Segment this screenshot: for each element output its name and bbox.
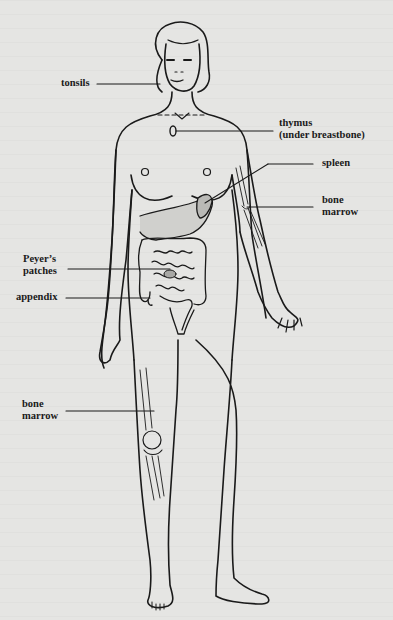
intestines	[139, 238, 206, 334]
face	[165, 40, 200, 91]
appendix-organ	[148, 300, 152, 305]
label-appendix: appendix	[16, 291, 57, 303]
label-peyers-patches: Peyer’s patches	[23, 253, 57, 277]
hair	[156, 22, 210, 92]
peyers-patches-organ	[164, 270, 176, 278]
label-spleen: spleen	[322, 157, 350, 169]
human-figure-drawing	[0, 0, 393, 620]
spleen-organ	[197, 195, 212, 218]
thymus-organ	[170, 126, 176, 136]
label-tonsils: tonsils	[61, 77, 90, 89]
label-bone-marrow-leg: bone marrow	[22, 398, 58, 422]
label-thymus: thymus (under breastbone)	[279, 117, 365, 141]
label-bone-marrow-arm: bone marrow	[322, 194, 358, 218]
legs	[134, 340, 269, 610]
left-arm	[232, 150, 302, 332]
stomach-spleen	[140, 195, 213, 240]
